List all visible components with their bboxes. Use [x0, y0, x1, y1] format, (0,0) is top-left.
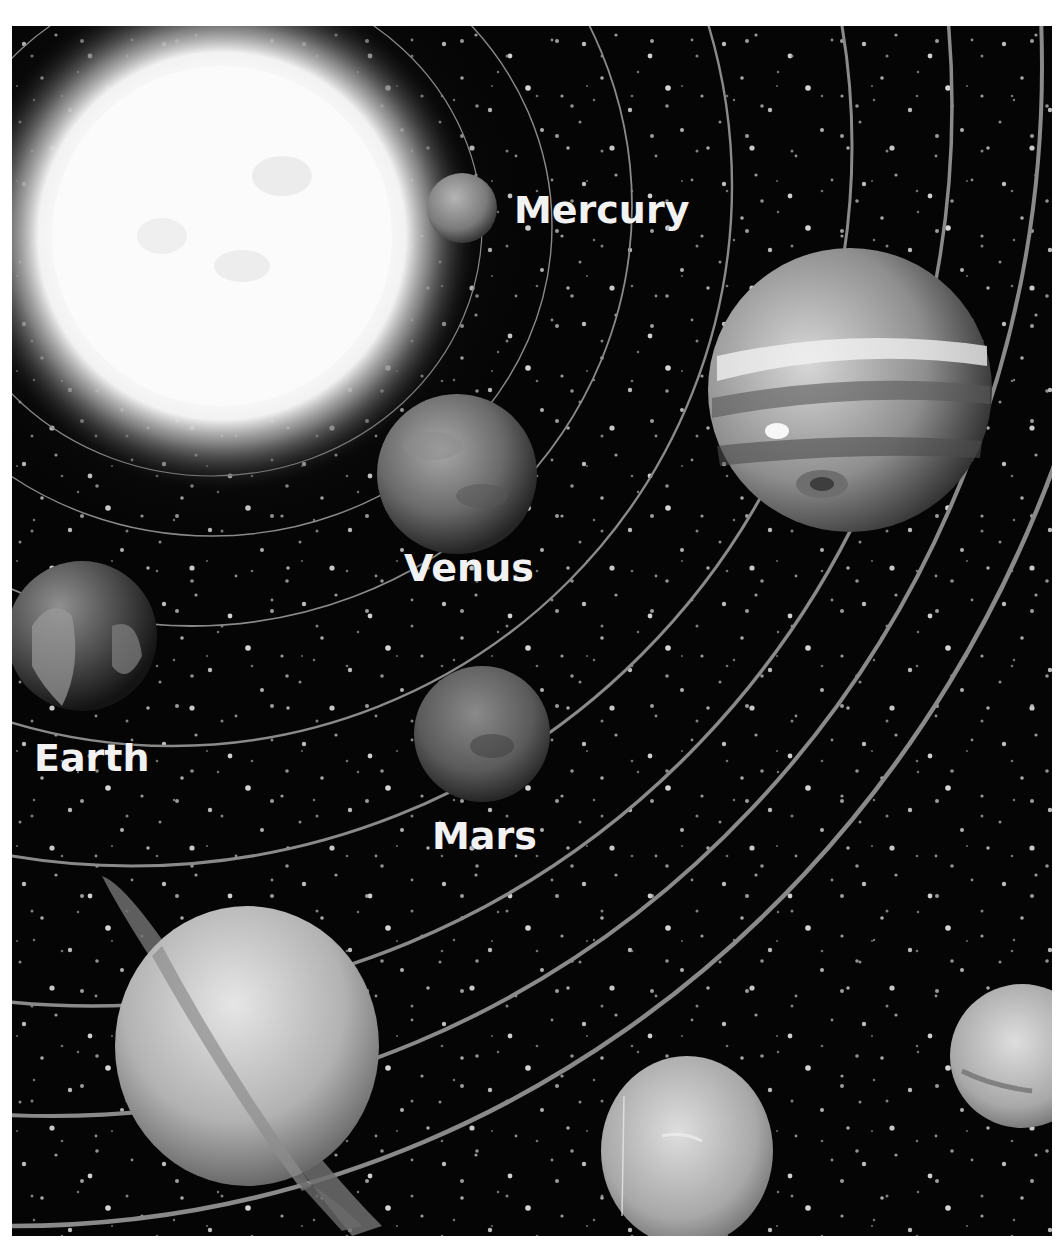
label-earth: Earth [34, 736, 150, 780]
solar-system-illustration: Mercury Venus Earth Mars [12, 26, 1052, 1236]
planet-mars [414, 666, 550, 802]
label-mercury: Mercury [514, 188, 689, 232]
planet-venus [377, 394, 537, 554]
planet-earth [12, 561, 157, 711]
label-venus: Venus [404, 546, 534, 590]
label-mars: Mars [432, 814, 537, 858]
planet-mercury [427, 173, 497, 243]
planet-jupiter [708, 248, 992, 532]
